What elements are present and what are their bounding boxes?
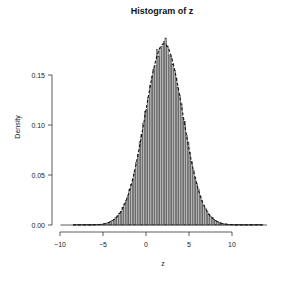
x-tick-label: 5 [187,241,191,248]
histogram-bar [112,221,114,225]
histogram-bar [201,200,203,225]
histogram-bar [172,64,174,225]
histogram-bar [149,85,151,225]
y-tick-label: 0.15 [31,72,45,79]
histogram-bar [136,162,138,225]
histogram-bar [143,123,145,225]
x-tick-label: −5 [99,241,107,248]
histogram-bar [125,201,127,225]
histogram-bar [120,211,122,225]
histogram-bar [129,189,131,225]
histogram-bar [189,153,191,225]
histogram-bar [168,55,170,225]
histogram-bar [134,171,136,225]
x-axis-label: z [161,260,165,267]
histogram-bar [148,98,150,225]
histogram-bar [132,179,134,225]
bars [61,38,268,225]
y-tick-label: 0.05 [31,172,45,179]
y-tick-label: 0.10 [31,122,45,129]
histogram-bar [158,57,160,226]
histogram-bar [210,216,212,225]
histogram-bar [174,70,176,225]
histogram-bar [160,49,162,225]
histogram-bar [194,177,196,225]
histogram-bar [118,214,120,225]
histogram-bar [165,38,167,225]
x-axis: −10−50510 [54,232,236,248]
histogram-bar [208,214,210,225]
histogram-bar [115,218,117,225]
histogram-bar [124,204,126,225]
histogram-bar [144,112,146,225]
histogram-bar [161,47,163,225]
histogram-bar [170,57,172,225]
x-tick-label: 10 [228,241,236,248]
histogram-bar [177,88,179,225]
y-axis-label: Density [14,115,22,139]
x-tick-label: −10 [54,241,66,248]
histogram-bar [139,142,141,226]
histogram-bar [182,117,184,225]
histogram-bar [196,184,198,225]
histogram-bar [192,170,194,225]
histogram-bar [206,211,208,225]
histogram-bar [163,41,165,225]
histogram-bar [203,205,205,225]
histogram-bar [199,196,201,225]
histogram-bar [179,95,181,225]
histogram-bar [213,219,215,225]
histogram-bar [155,65,157,225]
histogram-bar [151,77,153,225]
histogram-bar [146,109,148,225]
histogram-bar [186,135,188,225]
chart-title: Histogram of z [131,6,194,16]
histogram-bar [153,70,155,225]
histogram-bar [167,46,169,225]
histogram-bar [175,78,177,225]
histogram-bar [184,122,186,225]
y-axis: 0.000.050.100.15 [31,72,52,229]
histogram-bar [180,104,182,225]
histogram-bar [156,50,158,225]
histogram-bar [141,134,143,225]
histogram-bar [204,208,206,225]
x-tick-label: 0 [144,241,148,248]
histogram-bar [127,196,129,225]
histogram-bar [187,142,189,225]
histogram-chart: Histogram of z 0.000.050.100.15 −10−5051… [0,0,282,284]
histogram-bar [191,161,193,225]
histogram-bar [131,185,133,225]
y-tick-label: 0.00 [31,222,45,229]
histogram-bar [122,208,124,225]
histogram-bar [137,155,139,225]
histogram-bar [198,189,200,225]
